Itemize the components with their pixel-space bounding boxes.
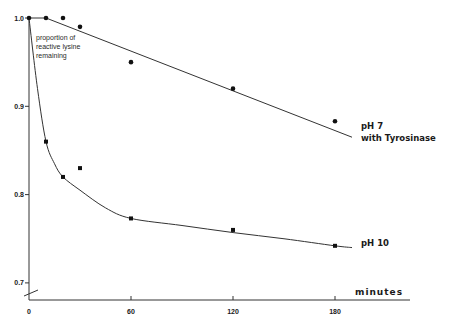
fit-line-ph7 (29, 18, 352, 137)
series-label-ph10: pH 10 (361, 238, 389, 248)
annotation-line-1: proportion of (36, 34, 75, 42)
annotation-line-3: remaining (36, 52, 67, 60)
y-tick-label: 0.7 (14, 279, 24, 286)
x-tick-label: 180 (329, 308, 341, 315)
series-label-ph7-line-1: pH 7 (361, 121, 383, 131)
series-label-ph7-line-2: with Tyrosinase (361, 133, 436, 143)
data-point-ph10 (231, 228, 235, 232)
axis-break-mark (24, 290, 38, 296)
data-point-ph10 (44, 140, 48, 144)
y-tick-label: 0.8 (14, 191, 24, 198)
annotation-line-2: reactive lysine (36, 43, 80, 51)
y-tick-label: 1.0 (14, 15, 24, 22)
x-tick-label: 0 (27, 308, 31, 315)
data-points (27, 16, 338, 248)
y-tick-label: 0.9 (14, 103, 24, 110)
fit-curve-ph10 (29, 18, 352, 248)
x-tick-label: 60 (127, 308, 135, 315)
data-point-ph7 (78, 25, 83, 30)
data-point-ph7 (333, 119, 338, 124)
data-point-ph7 (27, 16, 32, 21)
data-point-ph10 (333, 244, 337, 248)
data-point-ph7 (61, 16, 66, 21)
ticks: 0601201800.70.80.91.0 (14, 15, 341, 316)
data-point-ph7 (129, 60, 134, 65)
axes (24, 18, 410, 300)
x-axis-label: minutes (355, 287, 403, 297)
fit-lines (29, 18, 352, 248)
data-point-ph10 (129, 216, 133, 220)
chart: 0601201800.70.80.91.0 proportion of reac… (0, 0, 454, 326)
data-point-ph10 (78, 166, 82, 170)
x-tick-label: 120 (227, 308, 239, 315)
data-point-ph7 (44, 16, 49, 21)
data-point-ph7 (231, 86, 236, 91)
data-point-ph10 (61, 175, 65, 179)
